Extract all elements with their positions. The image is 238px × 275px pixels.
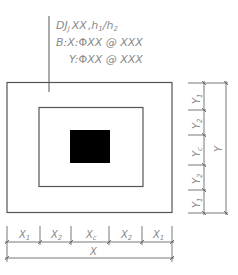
column-section <box>70 130 110 163</box>
foundation-drawing: DJJXX,h1/h2 B:X:ΦXX @ XXX Y:ΦXX @ XXX X <box>0 0 238 275</box>
y-dimension-labels: Y1 Y2 Yc Y2 Y1 Y <box>191 93 224 208</box>
rebar-grade-icon: Φ <box>79 36 88 49</box>
x-total-label: X <box>89 246 98 257</box>
reinforcement-annotation: DJJXX,h1/h2 B:X:ΦXX @ XXX Y:ΦXX @ XXX <box>56 19 143 66</box>
y-rebar-label: Y:ΦXX @ XXX <box>69 53 143 66</box>
y-total-label: Y <box>213 145 224 152</box>
foundation-id-label: DJJXX,h1/h2 <box>56 19 119 33</box>
x1-label-right: X1 <box>152 229 164 242</box>
y1-label-bottom: Y1 <box>191 197 204 208</box>
bottom-x-rebar-label: B:X:ΦXX @ XXX <box>56 36 143 49</box>
x1-label: X1 <box>18 229 30 242</box>
rebar-grade-icon: Φ <box>78 53 87 66</box>
y2-label-bottom: Y2 <box>191 173 204 184</box>
xc-label: Xc <box>85 229 97 242</box>
x2-label-right: X2 <box>120 229 133 242</box>
y1-label: Y1 <box>191 93 204 104</box>
y2-label: Y2 <box>191 118 204 129</box>
yc-label: Yc <box>191 147 204 157</box>
x2-label: X2 <box>50 229 63 242</box>
